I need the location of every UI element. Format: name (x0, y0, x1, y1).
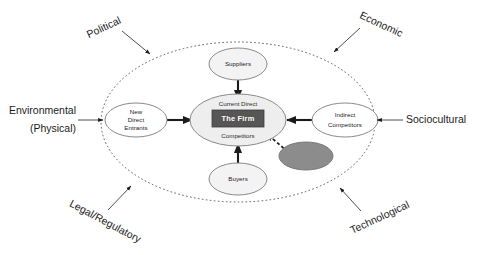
buyers-label: Buyers (228, 175, 248, 182)
suppliers-label: Suppliers (225, 60, 251, 67)
external-label-environmental-line-1: Environmental (9, 104, 76, 116)
external-label-legal-regulatory: Legal/Regulatory (68, 197, 144, 245)
indirect-competitors-label-line-1: Indirect (335, 111, 356, 118)
five-forces-diagram: Current Direct The Firm Competitors Supp… (0, 0, 477, 255)
pointer-economic (334, 28, 360, 52)
diagram-canvas: Current Direct The Firm Competitors Supp… (0, 0, 477, 255)
the-firm-label: The Firm (222, 114, 255, 123)
new-direct-entrants-label-line-2: Direct (128, 116, 145, 123)
external-label-sociocultural: Sociocultural (406, 113, 466, 125)
indirect-competitors-label-line-2: Competitors (328, 121, 362, 128)
external-label-political: Political (85, 14, 123, 40)
external-label-environmental-line-2: (Physical) (30, 122, 76, 134)
pointer-technological (340, 188, 361, 211)
pointer-political (122, 31, 150, 54)
new-direct-entrants-label-line-1: New (130, 108, 143, 115)
external-label-economic: Economic (358, 9, 405, 39)
center-line-top: Current Direct (219, 100, 258, 107)
complementors-label: Complementors (286, 152, 326, 158)
external-label-technological: Technological (348, 198, 411, 236)
pointer-legal-regulatory (108, 186, 131, 210)
new-direct-entrants-label-line-3: Entrants (124, 124, 147, 131)
center-line-bottom: Competitors (221, 132, 254, 139)
